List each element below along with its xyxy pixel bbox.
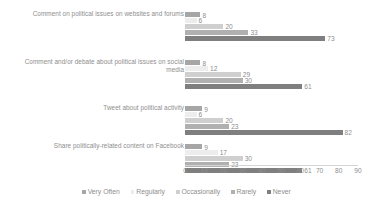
legend-label: Occasionally (182, 188, 221, 196)
bar-row: 12 (185, 66, 358, 71)
bar-never (185, 130, 343, 135)
legend-swatch-icon (267, 190, 271, 194)
bar-value-label: 61 (302, 83, 311, 90)
bar-row: 82 (185, 130, 358, 135)
legend-item-rarely[interactable]: Rarely (231, 188, 256, 196)
bar-row: 20 (185, 24, 358, 29)
bar-row: 9 (185, 106, 358, 111)
x-tick-label: 20 (220, 167, 227, 175)
legend-item-never[interactable]: Never (267, 188, 291, 196)
category-label-2: Tweet about political activity (6, 104, 184, 112)
legend-item-regularly[interactable]: Regularly (131, 188, 165, 196)
x-tick-label: 60 (297, 167, 304, 175)
bar-row: 6 (185, 18, 358, 23)
legend-label: Very Often (88, 188, 120, 196)
category-label-0: Comment on political issues on websites … (6, 10, 184, 18)
bar-regularly (185, 66, 208, 71)
legend-swatch-icon (231, 190, 235, 194)
bar-rarely (185, 78, 243, 83)
legend-item-very-often[interactable]: Very Often (82, 188, 120, 196)
legend-swatch-icon (131, 190, 135, 194)
bar-rarely (185, 124, 229, 129)
bar-regularly (185, 112, 197, 117)
bar-row: 61 (185, 168, 358, 173)
bar-never (185, 36, 325, 41)
horizontal-bar-chart: Comment on political issues on websites … (0, 0, 373, 206)
plot-area: 8620337381229306196202382917302361 (185, 6, 358, 165)
x-tick-label: 40 (258, 167, 265, 175)
legend-swatch-icon (176, 190, 180, 194)
legend-label: Never (273, 188, 291, 196)
x-tick-label: 10 (201, 167, 208, 175)
bar-row: 23 (185, 124, 358, 129)
x-tick-label: 0 (183, 167, 187, 175)
x-tick-label: 70 (316, 167, 323, 175)
bar-very-often (185, 144, 202, 149)
chart-legend: Very OftenRegularlyOccasionallyRarelyNev… (0, 188, 373, 196)
bar-row: 8 (185, 12, 358, 17)
bar-regularly (185, 18, 197, 23)
bar-value-label: 73 (325, 35, 334, 42)
bar-occasionally (185, 72, 241, 77)
x-tick-label: 30 (239, 167, 246, 175)
bar-never (185, 84, 302, 89)
category-label-1: Comment and/or debate about political is… (6, 58, 184, 74)
bar-row: 61 (185, 84, 358, 89)
bar-very-often (185, 60, 200, 65)
legend-label: Regularly (136, 188, 165, 196)
x-axis-line (185, 165, 358, 166)
bar-row: 73 (185, 36, 358, 41)
bar-row: 30 (185, 156, 358, 161)
category-label-3: Share politically-related content on Fac… (6, 142, 184, 150)
bar-row: 9 (185, 144, 358, 149)
bar-row: 30 (185, 78, 358, 83)
x-tick-label: 80 (335, 167, 342, 175)
bar-rarely (185, 30, 248, 35)
bar-regularly (185, 150, 218, 155)
bar-occasionally (185, 118, 223, 123)
x-tick-label: 90 (354, 167, 361, 175)
legend-item-occasionally[interactable]: Occasionally (176, 188, 220, 196)
bar-row: 17 (185, 150, 358, 155)
bar-row: 29 (185, 72, 358, 77)
x-tick-label: 50 (277, 167, 284, 175)
legend-swatch-icon (82, 190, 86, 194)
bar-value-label: 82 (343, 129, 352, 136)
bar-row: 20 (185, 118, 358, 123)
bar-occasionally (185, 24, 223, 29)
bar-row: 6 (185, 112, 358, 117)
legend-label: Rarely (237, 188, 257, 196)
